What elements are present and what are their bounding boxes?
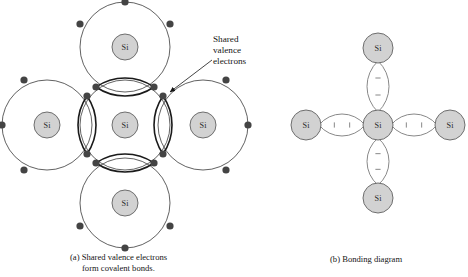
caption-a-line-1: (a) Shared valence electrons: [70, 252, 168, 262]
atom-right-label: Si: [200, 121, 208, 130]
electron-outer-11: [121, 244, 128, 251]
electron-shared-2: [83, 92, 90, 99]
electron-outer-10: [166, 222, 173, 229]
figure-root: SiSiSiSiSi SiSiSiSiSi Shared valence ele…: [0, 0, 468, 277]
bond-right: [391, 114, 437, 136]
electron-outer-3: [0, 121, 6, 128]
bond-left: [319, 114, 365, 136]
electron-outer-6: [222, 76, 229, 83]
electron-shared-1: [150, 83, 157, 90]
caption-b-line-1: (b) Bonding diagram: [330, 254, 402, 264]
electron-outer-5: [20, 166, 27, 173]
bond-top: [367, 61, 389, 112]
atom-b-top-label: Si: [375, 44, 383, 53]
electron-outer-4: [20, 76, 27, 83]
electron-outer-1: [76, 20, 83, 27]
annotation-line-3: electrons: [213, 56, 247, 66]
atom-left-label: Si: [44, 121, 52, 130]
atom-top-label: Si: [122, 43, 130, 52]
electron-outer-0: [121, 0, 128, 6]
electron-shared-5: [159, 150, 166, 157]
bond-bottom: [367, 138, 389, 185]
electron-shared-4: [83, 150, 90, 157]
figure-svg: SiSiSiSiSi SiSiSiSiSi Shared valence ele…: [0, 0, 468, 277]
electron-shared-3: [159, 92, 166, 99]
atom-b-center-label: Si: [375, 121, 383, 130]
caption-a-line-2: form covalent bonds.: [82, 263, 155, 273]
atom-b-right-label: Si: [447, 121, 455, 130]
annotation-arrow: [170, 60, 212, 92]
electron-shared-7: [150, 159, 157, 166]
atom-bottom-label: Si: [122, 199, 130, 208]
annotation-line-2: valence: [213, 45, 241, 55]
panel-b-bonding-diagram: SiSiSiSiSi: [291, 33, 465, 213]
electron-outer-8: [222, 166, 229, 173]
electron-shared-0: [92, 83, 99, 90]
atom-b-bottom-label: Si: [375, 194, 383, 203]
annotation-shared-valence-electrons: Shared valence electrons: [170, 34, 247, 92]
electron-outer-9: [76, 222, 83, 229]
electron-shared-6: [92, 159, 99, 166]
atom-center-label: Si: [122, 121, 130, 130]
electron-outer-7: [244, 121, 251, 128]
electron-outer-2: [166, 20, 173, 27]
annotation-line-1: Shared: [213, 34, 239, 44]
atom-b-left-label: Si: [303, 121, 311, 130]
